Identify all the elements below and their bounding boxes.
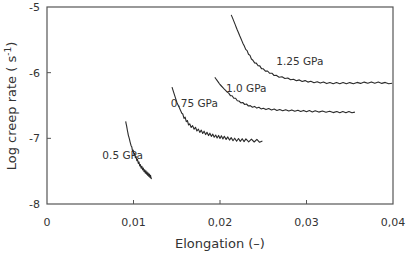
series-line-0-75-gpa [172,87,262,142]
y-tick-label: -8 [29,198,40,211]
y-axis-title-main: Log creep rate ( s [4,56,19,171]
series-label: 1.25 GPa [276,55,323,67]
x-tick-label: 0,03 [294,216,319,229]
series-label: 0.5 GPa [102,149,142,161]
x-tick-label: 0,01 [121,216,146,229]
series-label: 1.0 GPa [226,82,266,94]
y-axis-title-sup: -1 [3,47,13,56]
x-axis-title: Elongation (–) [175,236,265,251]
plot-area [47,7,393,204]
y-tick-label: -7 [29,132,40,145]
series-labels: 0.5 GPa0.75 GPa1.0 GPa1.25 GPa [102,55,323,162]
x-tick-label: 0,02 [208,216,233,229]
series-line-1-25-gpa [231,15,392,84]
series-label: 0.75 GPa [171,97,218,109]
y-tick-label: -5 [29,1,40,14]
creep-rate-chart: 00,010,020,030,04 -5-6-7-8 0.5 GPa0.75 G… [0,0,408,260]
y-axis: -5-6-7-8 [29,1,51,211]
series-lines [126,15,392,179]
plot-frame [47,7,393,204]
y-tick-label: -6 [29,67,40,80]
y-axis-title: Log creep rate ( s-1) [3,42,19,171]
x-tick-label: 0,04 [381,216,406,229]
x-tick-label: 0 [44,216,51,229]
y-axis-title-end: ) [4,42,19,47]
